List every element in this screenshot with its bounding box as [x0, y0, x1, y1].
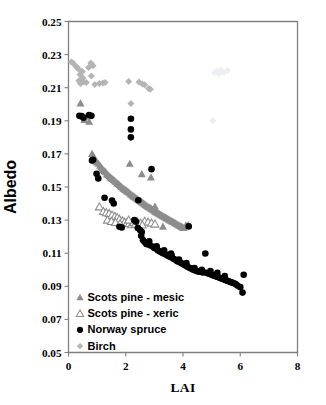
- y-axis-ticks: 0.050.070.090.110.130.150.170.190.210.23…: [42, 16, 69, 359]
- data-point-diamond: [125, 78, 132, 85]
- y-tick-label: 0.13: [42, 214, 62, 226]
- data-point-circle: [133, 218, 140, 225]
- data-point-circle: [135, 197, 142, 204]
- data-point-circle: [148, 166, 155, 173]
- data-point-circle: [199, 266, 206, 273]
- data-point-circle: [207, 268, 214, 275]
- legend-label-1: Scots pine - mesic: [88, 291, 185, 303]
- x-tick-label: 8: [295, 360, 301, 372]
- y-tick-label: 0.07: [42, 313, 62, 325]
- data-point-circle: [221, 273, 228, 280]
- data-point-triangle: [138, 170, 146, 177]
- series-scots-pine-mesic: [77, 99, 193, 231]
- x-tick-label: 2: [123, 360, 129, 372]
- x-axis-title: LAI: [170, 380, 195, 395]
- data-point-circle: [214, 269, 221, 276]
- data-point-circle: [153, 243, 160, 250]
- y-tick-label: 0.15: [42, 181, 62, 193]
- chart-legend: Scots pine - mesicScots pine - xericNorw…: [76, 291, 184, 352]
- y-axis-title: Albedo: [2, 160, 19, 214]
- data-point-triangle: [147, 173, 155, 180]
- data-point-circle: [134, 225, 141, 232]
- albedo-lai-scatter-plot: 0.050.070.090.110.130.150.170.190.210.23…: [0, 0, 326, 405]
- data-point-circle: [128, 134, 135, 141]
- data-point-diamond: [209, 117, 216, 124]
- data-point-circle: [202, 250, 209, 257]
- data-point-triangle: [126, 160, 134, 167]
- data-point-circle: [185, 223, 192, 230]
- data-point-diamond: [88, 73, 95, 80]
- legend-marker-3: [77, 327, 83, 333]
- data-point-circle: [118, 224, 125, 231]
- data-point-circle: [176, 256, 183, 263]
- y-tick-label: 0.17: [42, 148, 62, 160]
- data-point-circle: [88, 113, 95, 120]
- data-point-circle: [146, 238, 153, 245]
- data-point-circle: [168, 252, 175, 259]
- legend-marker-4: [77, 343, 83, 349]
- data-point-circle: [183, 260, 190, 267]
- series-norway-spruce: [76, 112, 247, 296]
- y-tick-label: 0.11: [43, 247, 62, 259]
- data-point-circle: [161, 247, 168, 254]
- x-axis-ticks: 02468: [66, 353, 301, 372]
- data-point-circle: [110, 200, 117, 207]
- legend-label-3: Norway spruce: [88, 323, 167, 335]
- x-tick-label: 6: [237, 360, 243, 372]
- data-point-circle: [128, 116, 135, 123]
- x-tick-label: 0: [66, 360, 72, 372]
- legend-label-2: Scots pine - xeric: [88, 307, 179, 319]
- data-point-circle: [191, 265, 198, 272]
- legend-marker-2: [76, 310, 83, 317]
- y-tick-label: 0.25: [42, 16, 62, 28]
- data-point-circle: [128, 126, 135, 133]
- data-point-circle: [95, 175, 102, 182]
- y-tick-label: 0.19: [42, 115, 62, 127]
- y-tick-label: 0.05: [42, 347, 62, 359]
- data-point-circle: [90, 156, 97, 163]
- y-tick-label: 0.09: [42, 280, 62, 292]
- legend-label-4: Birch: [88, 340, 116, 352]
- data-point-diamond: [127, 100, 134, 107]
- data-point-circle: [240, 271, 247, 278]
- legend-marker-1: [76, 294, 83, 301]
- chart-figure: 0.050.070.090.110.130.150.170.190.210.23…: [0, 0, 326, 405]
- data-point-circle: [239, 289, 246, 296]
- x-tick-label: 4: [180, 360, 186, 372]
- y-tick-label: 0.23: [42, 49, 62, 61]
- y-tick-label: 0.21: [42, 82, 62, 94]
- data-point-triangle: [77, 99, 85, 106]
- data-series-layer: [68, 59, 247, 296]
- data-point-circle: [101, 194, 108, 201]
- data-point-circle: [80, 115, 87, 122]
- data-point-triangle: [159, 223, 167, 230]
